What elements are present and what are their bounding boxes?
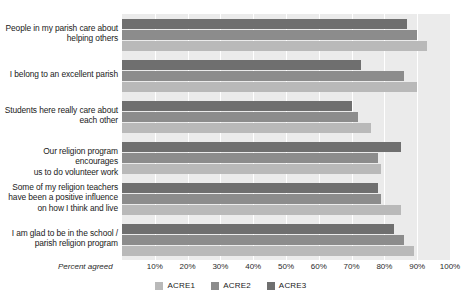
legend-label-acre2: ACRE2	[223, 281, 251, 290]
category-label-line: parish religion program	[2, 238, 118, 249]
category-label-line: I belong to an excellent parish	[2, 69, 118, 80]
x-tick-20pct: 20%	[180, 262, 196, 271]
category-label-line: on how I think and live	[2, 203, 118, 214]
x-tick-60pct: 60%	[311, 262, 327, 271]
category-label: I belong to an excellent parish	[2, 69, 118, 80]
category-label: Students here really care abouteach othe…	[2, 105, 118, 126]
legend-item-acre2[interactable]: ACRE2	[211, 281, 251, 290]
acre-horizontal-bar-chart: People in my parish care abouthelping ot…	[0, 0, 462, 300]
category-label-line: us to do volunteer work	[2, 167, 118, 178]
category-label: Our religion program encouragesus to do …	[2, 146, 118, 178]
category-label: Some of my religion teachershave been a …	[2, 182, 118, 214]
legend-swatch-acre3	[267, 282, 275, 290]
category-labels: People in my parish care abouthelping ot…	[0, 14, 462, 260]
category-label: People in my parish care abouthelping ot…	[2, 23, 118, 44]
category-label-line: Our religion program encourages	[2, 146, 118, 167]
x-axis-ticks: 10%20%30%40%50%60%70%80%90%100%	[122, 262, 450, 276]
legend-swatch-acre2	[211, 282, 219, 290]
x-tick-10pct: 10%	[147, 262, 163, 271]
category-label: I am glad to be in the school /parish re…	[2, 228, 118, 249]
x-axis-label: Percent agreed	[58, 262, 113, 271]
x-tick-100pct: 100%	[440, 262, 460, 271]
x-tick-40pct: 40%	[245, 262, 261, 271]
x-tick-50pct: 50%	[278, 262, 294, 271]
clipped-title-strip	[0, 0, 462, 2]
legend-swatch-acre1	[155, 282, 163, 290]
x-tick-80pct: 80%	[376, 262, 392, 271]
category-label-line: Students here really care about	[2, 105, 118, 116]
x-tick-90pct: 90%	[409, 262, 425, 271]
category-label-line: People in my parish care about	[2, 23, 118, 34]
legend-item-acre1[interactable]: ACRE1	[155, 281, 195, 290]
category-label-line: I am glad to be in the school /	[2, 228, 118, 239]
chart-legend: ACRE1ACRE2ACRE3	[0, 281, 462, 290]
x-tick-30pct: 30%	[212, 262, 228, 271]
x-tick-70pct: 70%	[344, 262, 360, 271]
category-label-line: Some of my religion teachers	[2, 182, 118, 193]
legend-label-acre1: ACRE1	[167, 281, 195, 290]
legend-item-acre3[interactable]: ACRE3	[267, 281, 307, 290]
legend-label-acre3: ACRE3	[279, 281, 307, 290]
category-label-line: helping others	[2, 33, 118, 44]
category-label-line: have been a positive influence	[2, 192, 118, 203]
category-label-line: each other	[2, 115, 118, 126]
